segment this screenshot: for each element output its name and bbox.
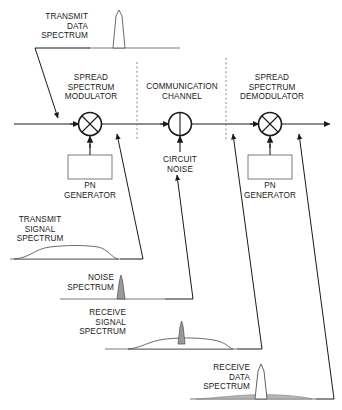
leader-receive-data-spectrum (299, 134, 334, 399)
transmit-data-spectrum-plot (88, 10, 180, 48)
circuit-noise-label: CIRCUIT NOISE (148, 155, 212, 174)
spread-spectrum-diagram: TRANSMIT DATA SPECTRUM SPREAD SPECTRUM M… (0, 0, 342, 410)
pn-generator-rx-label: PN GENERATOR (230, 181, 310, 200)
pn-generator-rx-symbol (248, 136, 292, 179)
receive-data-spectrum-label: RECEIVE DATA SPECTRUM (178, 363, 250, 392)
communication-channel-label: COMMUNICATION CHANNEL (138, 82, 226, 101)
transmit-data-spectrum-label: TRANSMIT DATA SPECTRUM (14, 12, 88, 41)
pn-generator-tx-symbol (68, 136, 112, 179)
pn-generator-tx-label: PN GENERATOR (50, 181, 130, 200)
communication-channel-symbol (169, 113, 192, 136)
noise-spectrum-label: NOISE SPECTRUM (42, 273, 114, 292)
spread-spectrum-demodulator-label: SPREAD SPECTRUM DEMODULATOR (226, 73, 318, 102)
diagram-canvas (0, 0, 342, 410)
spread-spectrum-demodulator-symbol (259, 113, 282, 136)
spread-spectrum-modulator-label: SPREAD SPECTRUM MODULATOR (46, 73, 136, 102)
transmit-signal-spectrum-label: TRANSMIT SIGNAL SPECTRUM (6, 215, 74, 244)
transmit-signal-spectrum-plot (10, 246, 120, 260)
leader-noise-spectrum (165, 175, 193, 299)
receive-signal-spectrum-label: RECEIVE SIGNAL SPECTRUM (52, 308, 126, 337)
spread-spectrum-modulator-symbol (79, 113, 102, 136)
